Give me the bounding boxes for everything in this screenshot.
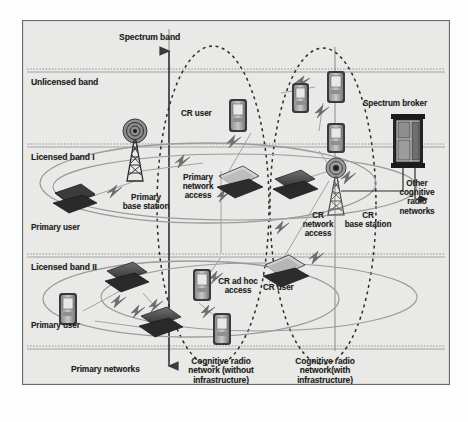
group-label-primary-networks: Primary networks — [71, 365, 140, 374]
pda-icon-cr-middle-right — [327, 123, 345, 153]
tower-icon-primary-base-station — [123, 119, 147, 181]
laptop-icon-primary-user-2-bottom — [139, 307, 183, 337]
pda-icon-cr-user-top — [229, 99, 247, 132]
server-icon-spectrum-broker — [391, 114, 425, 168]
group-label-cr-without-infrastructure: Cognitive radio network (without infrast… — [177, 357, 265, 385]
node-label-primary-user-1: Primary user — [31, 223, 80, 232]
band-label-unlicensed: Unlicensed band — [31, 78, 98, 88]
node-label-cr-user-top: CR user — [181, 109, 212, 118]
tower-icon-cr-base-station — [326, 158, 346, 215]
pda-icon-cr-top-left — [292, 83, 309, 113]
cognitive-radio-network-figure: Unlicensed band Licensed band I Licensed… — [22, 20, 450, 385]
pda-icon-cr-top-right — [327, 71, 345, 103]
laptop-icon-primary-user-1 — [53, 184, 97, 213]
axis-title-spectrum-band: Spectrum band — [119, 33, 180, 43]
figure-caption — [24, 404, 324, 416]
node-label-cr-ad-hoc-access: CR ad hoc access — [209, 277, 267, 295]
node-label-primary-network-access: Primary network access — [175, 173, 221, 201]
laptop-icon-cr-user-middle — [273, 170, 318, 199]
node-label-cr-network-access: CR network access — [295, 211, 341, 239]
node-label-primary-user-2: Primary user — [31, 321, 80, 330]
figure-canvas: Unlicensed band Licensed band I Licensed… — [23, 21, 449, 384]
group-label-cr-with-infrastructure: Cognitive radio network(with infrastruct… — [281, 357, 369, 385]
pda-icon-cr-ad-hoc-lower — [213, 313, 231, 345]
figure-page: Unlicensed band Licensed band I Licensed… — [0, 0, 468, 422]
node-label-spectrum-broker: Spectrum broker — [363, 99, 427, 108]
band-label-licensed-1: Licensed band I — [31, 153, 94, 163]
node-label-primary-base-station: Primary base station — [115, 193, 177, 211]
node-label-cr-user-bottom: CR user — [263, 283, 294, 292]
band-label-licensed-2: Licensed band II — [31, 263, 97, 273]
node-label-other-cr-networks: Other cognitive radio networks — [389, 179, 445, 216]
figure-graphics — [23, 21, 449, 384]
